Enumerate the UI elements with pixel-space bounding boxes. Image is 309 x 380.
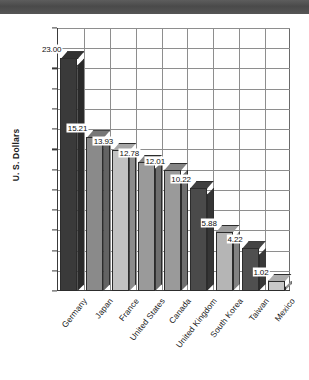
data-label: 1.02	[252, 267, 269, 276]
data-label: 4.22	[226, 235, 243, 244]
bar-series	[57, 28, 290, 291]
data-label: 15.21	[67, 124, 89, 133]
bar-side-face	[129, 150, 136, 291]
y-axis-title: U. S. Dollars	[11, 115, 21, 195]
bar[interactable]	[112, 143, 129, 291]
bar-side-face	[77, 58, 84, 291]
data-label: 5.88	[201, 218, 218, 227]
bar-chart: U. S. Dollars 26242220181614121086420 23…	[0, 0, 309, 380]
x-tick-label: Germany	[60, 296, 89, 330]
data-label: 12.78	[119, 148, 141, 157]
bar-side-face	[155, 162, 162, 291]
data-label: 10.22	[170, 174, 192, 183]
bar[interactable]	[190, 181, 207, 291]
x-tick-label: Japan	[93, 296, 115, 320]
bar[interactable]	[268, 274, 285, 291]
bar[interactable]	[60, 51, 77, 291]
bar-side-face	[285, 281, 292, 291]
bar-front-face	[112, 150, 129, 291]
data-label: 23.00	[41, 45, 63, 54]
bar-front-face	[190, 188, 207, 291]
bar-side-face	[181, 170, 188, 291]
bar-front-face	[268, 281, 285, 291]
bar-front-face	[86, 137, 103, 291]
bar-front-face	[164, 170, 181, 291]
bar[interactable]	[242, 241, 259, 291]
x-tick-label: Canada	[167, 296, 193, 326]
data-label: 12.01	[144, 156, 166, 165]
bar-front-face	[60, 58, 77, 291]
x-tick-label: France	[117, 296, 141, 323]
bar-side-face	[207, 188, 214, 291]
bar[interactable]	[138, 155, 155, 291]
data-label: 13.93	[93, 137, 115, 146]
x-tick-label: Mexico	[272, 296, 296, 323]
title-banner	[0, 0, 309, 14]
bar-side-face	[103, 137, 110, 291]
x-tick-label: Taiwan	[246, 296, 270, 323]
bar[interactable]	[86, 130, 103, 291]
bar-front-face	[138, 162, 155, 291]
